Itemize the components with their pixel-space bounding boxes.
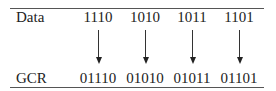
arrowhead-icon bbox=[143, 57, 149, 64]
gcr-value: 01110 bbox=[80, 71, 116, 86]
data-value: 1101 bbox=[224, 10, 253, 25]
row-label-gcr: GCR bbox=[16, 71, 47, 86]
data-value: 1110 bbox=[84, 10, 113, 25]
gcr-value: 01101 bbox=[221, 71, 258, 86]
row-label-data: Data bbox=[16, 10, 44, 25]
arrow-down-icon bbox=[239, 30, 240, 58]
arrowhead-icon bbox=[96, 57, 102, 64]
arrow-down-icon bbox=[192, 30, 193, 58]
gcr-value: 01011 bbox=[174, 71, 211, 86]
arrowhead-icon bbox=[190, 57, 196, 64]
arrow-down-icon bbox=[145, 30, 146, 58]
gcr-value: 01010 bbox=[126, 71, 164, 86]
arrowhead-icon bbox=[237, 57, 243, 64]
arrow-down-icon bbox=[98, 30, 99, 58]
bottom-rule bbox=[10, 87, 264, 88]
data-value: 1011 bbox=[177, 10, 206, 25]
data-value: 1010 bbox=[130, 10, 160, 25]
